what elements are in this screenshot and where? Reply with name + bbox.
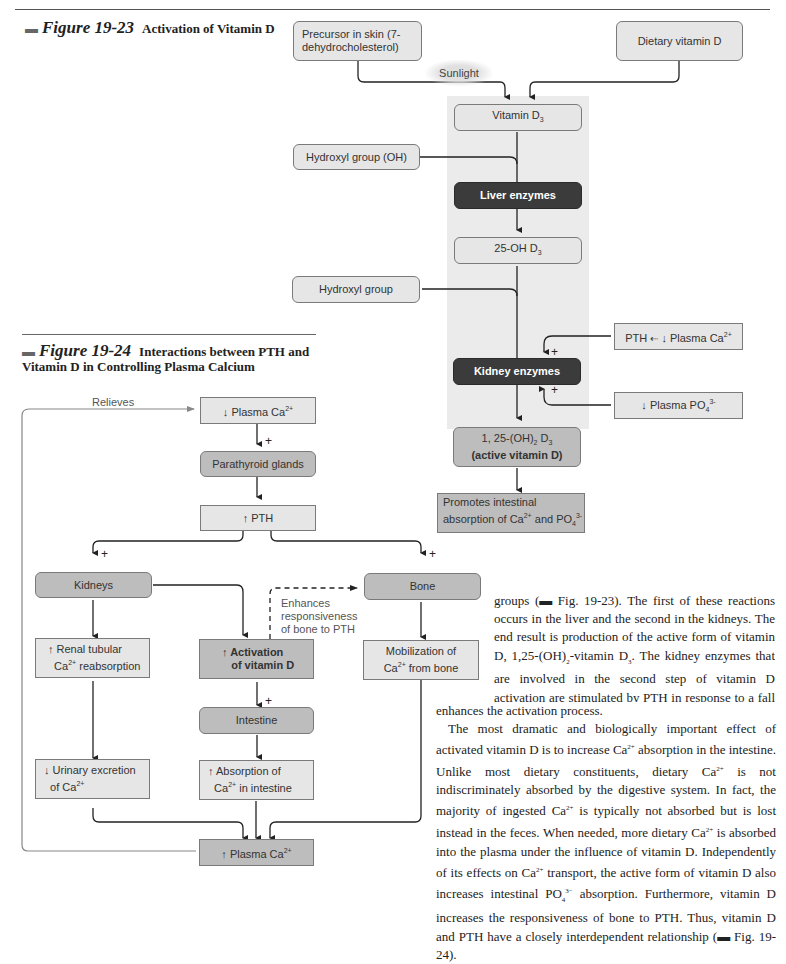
urinary-label: ↓ Urinary excretion of Ca2+ [44,764,136,794]
body-paragraph-1: groups (▬ Fig. 19-23). The first of thes… [494,592,775,702]
urinary-excretion-box: ↓ Urinary excretion of Ca2+ [35,759,150,799]
pth-increase-box: ↑ PTH [200,505,316,531]
liver-enzymes-box: Liver enzymes [454,182,582,209]
hydroxyl-oh-box: Hydroxyl group (OH) [293,144,420,170]
pth-plasma-ca-label: PTH ⇠ ↓ Plasma Ca2+ [625,328,731,345]
promotes-absorption-box: Promotes intestinal absorption of Ca2+ a… [437,493,585,533]
kidneys-label: Kidneys [74,579,113,592]
activation-line2: of vitamin D [222,659,294,672]
parathyroid-label: Parathyroid glands [212,458,304,471]
active-vitamin-d-line1: 1, 25-(OH)2 D3 [482,432,553,449]
plasma-po4-box: ↓ Plasma PO43- [614,392,743,419]
plasma-ca-decrease-box: ↓ Plasma Ca2+ [200,397,316,424]
liver-enzymes-label: Liver enzymes [480,189,556,202]
kidney-enzymes-box: Kidney enzymes [453,358,581,385]
figure-bullet-icon: ▬ [22,344,35,359]
pth-plasma-ca-box: PTH ⇠ ↓ Plasma Ca2+ [614,323,743,350]
figure-number: Figure 19-24 [39,341,131,360]
enhances-responsiveness-label: Enhances responsiveness of bone to PTH [281,597,361,636]
vitamin-d3-label: Vitamin D3 [492,109,543,126]
figure-19-24-caption: ▬Figure 19-24Interactions between PTH an… [22,343,322,374]
active-vitamin-d-box: 1, 25-(OH)2 D3 (active vitamin D) [453,427,581,467]
paragraph-1-text: groups (▬ Fig. 19-23). The first of thes… [494,592,775,702]
25-oh-d3-box: 25-OH D3 [454,237,582,264]
plasma-po4-label: ↓ Plasma PO43- [641,395,715,416]
promotes-label: Promotes intestinal absorption of Ca2+ a… [443,496,584,530]
mobilization-label: Mobilization ofCa2+ from bone [384,645,459,675]
mobilization-box: Mobilization ofCa2+ from bone [363,640,479,680]
plus-sign: + [551,345,558,359]
absorption-intestine-box: ↑ Absorption of Ca2+ in intestine [199,760,314,800]
precursor-in-skin-box: Precursor in skin (7-dehydrocholesterol) [293,21,422,61]
sunlight-burst-icon: Sunlight [426,60,492,86]
pth-increase-label: ↑ PTH [243,512,274,525]
hydroxyl-group-box: Hydroxyl group [292,276,420,303]
activation-line1: ↑ Activation [222,646,283,659]
bone-label: Bone [410,580,436,593]
kidney-enzymes-label: Kidney enzymes [474,365,560,378]
paragraph-2-text: The most dramatic and biologically impor… [436,720,776,964]
body-paragraph-1-end: enhances the activation process. [436,702,776,720]
sunlight-text: Sunlight [439,67,479,79]
plus-sign: + [429,547,436,561]
plus-sign: + [101,547,108,561]
dietary-label: Dietary vitamin D [638,35,722,48]
relieves-label: Relieves [92,396,134,409]
renal-reabsorption-box: ↑ Renal tubular Ca2+ reabsorption [35,638,150,678]
plasma-ca-increase-label: ↑ Plasma Ca2+ [221,844,291,861]
kidneys-box: Kidneys [35,572,152,598]
dietary-vitamin-d-box: Dietary vitamin D [616,21,743,61]
vitamin-d3-box: Vitamin D3 [454,104,582,131]
intestine-box: Intestine [199,707,314,734]
plus-sign: + [265,694,272,708]
25-oh-d3-label: 25-OH D3 [494,242,541,259]
renal-line1: ↑ Renal tubular [48,643,122,656]
renal-line2: Ca2+ reabsorption [48,656,140,673]
figure-19-24-rule [22,334,316,335]
bone-box: Bone [364,573,481,600]
hydroxyl-group-label: Hydroxyl group [319,283,393,296]
intestine-label: Intestine [236,714,278,727]
plasma-ca-decrease-label: ↓ Plasma Ca2+ [223,402,293,419]
precursor-label: Precursor in skin (7-dehydrocholesterol) [302,28,421,54]
plasma-ca-increase-box: ↑ Plasma Ca2+ [199,839,314,866]
hydroxyl-oh-label: Hydroxyl group (OH) [306,151,407,164]
active-vitamin-d-line2: (active vitamin D) [471,449,562,462]
plus-sign: + [265,434,272,448]
parathyroid-glands-box: Parathyroid glands [200,451,316,477]
body-paragraph-2: The most dramatic and biologically impor… [436,720,776,964]
plus-sign: + [551,383,558,397]
absorption-label: ↑ Absorption of Ca2+ in intestine [208,765,292,795]
paragraph-1-end-text: enhances the activation process. [436,702,776,720]
activation-vitamin-d-box: ↑ Activation of vitamin D [199,639,314,679]
